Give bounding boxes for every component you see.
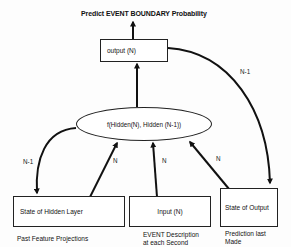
edge-label-output-to-output-state: N-1: [240, 68, 250, 75]
edge-label-output-state-to-function: N: [216, 155, 221, 162]
function-node: f(Hidden(N), Hidden (N-1)): [76, 107, 212, 141]
rnn-event-boundary-diagram: Predict EVENT BOUNDARY Probability outpu…: [0, 0, 291, 247]
input-caption-line1: EVENT Description: [143, 231, 199, 239]
input-node-label: Input (N): [157, 208, 182, 215]
edge-label-function-to-hidden-state: N-1: [23, 158, 33, 165]
edge-label-input-to-function: N: [162, 157, 167, 164]
arrow-hidden-state-to-function: [90, 143, 117, 197]
input-node: Input (N): [129, 196, 211, 227]
output-node-label: output (N): [101, 47, 136, 54]
arrow-input-to-function: [153, 143, 157, 197]
output-node: output (N): [100, 39, 168, 62]
output-state-caption-line1: Prediction last: [225, 230, 266, 238]
diagram-title: Predict EVENT BOUNDARY Probability: [81, 10, 207, 18]
arrow-function-to-hidden-state: [37, 128, 76, 193]
output-state-label: State of Output: [221, 204, 269, 211]
output-state-caption-line2: Made: [225, 238, 241, 246]
hidden-state-node: State of Hidden Layer: [13, 196, 125, 227]
output-state-node: State of Output: [220, 188, 278, 227]
edge-label-hidden-state-to-function: N: [113, 157, 118, 164]
hidden-state-caption: Past Feature Projections: [17, 235, 88, 243]
function-node-label: f(Hidden(N), Hidden (N-1)): [107, 121, 181, 128]
input-caption-line2: at each Second: [143, 239, 188, 247]
hidden-state-label: State of Hidden Layer: [14, 208, 83, 215]
